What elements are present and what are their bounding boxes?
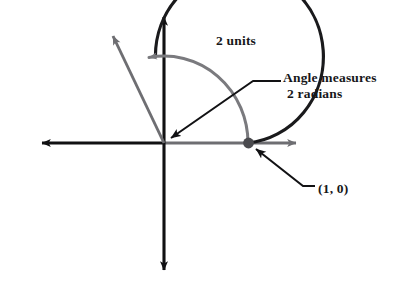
arc-length-label: 2 units	[216, 33, 256, 49]
point-one-zero-marker	[243, 138, 254, 149]
angle-measure-label: Angle measures2 radians	[283, 70, 377, 102]
point-coordinate-label: (1, 0)	[318, 181, 348, 197]
angle-measure-label-line1: Angle measures	[283, 70, 377, 85]
angle-measure-label-line2: 2 radians	[283, 86, 377, 102]
unit-circle-figure	[0, 0, 413, 289]
